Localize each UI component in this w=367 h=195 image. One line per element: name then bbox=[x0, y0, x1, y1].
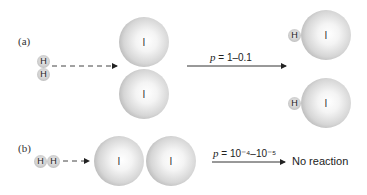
h-atom: H bbox=[288, 97, 301, 110]
i-atom-sphere: I bbox=[146, 136, 196, 186]
i-atom-sphere: I bbox=[119, 69, 169, 119]
h-atom: H bbox=[37, 55, 50, 68]
i-atom-sphere: I bbox=[94, 136, 144, 186]
panel-a-label: (a) bbox=[18, 35, 30, 47]
no-reaction-label: No reaction bbox=[292, 155, 348, 167]
h-atom: H bbox=[34, 155, 47, 168]
i-atom-sphere: I bbox=[301, 78, 351, 128]
i-atom-sphere: I bbox=[119, 17, 169, 67]
h-atom: H bbox=[288, 29, 301, 42]
h-atom: H bbox=[47, 155, 60, 168]
probability-label-b: p = 10⁻⁴–10⁻⁵ bbox=[213, 147, 276, 159]
panel-b-label: (b) bbox=[18, 142, 31, 154]
i-atom-sphere: I bbox=[301, 10, 351, 60]
probability-label-a: p = 1–0.1 bbox=[210, 51, 252, 63]
h-atom: H bbox=[37, 68, 50, 81]
